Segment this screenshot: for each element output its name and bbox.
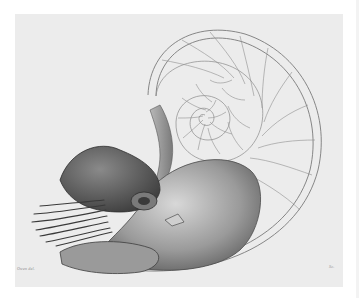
engraver-signature: Sc. <box>329 264 334 269</box>
artist-signature: Owen del. <box>17 266 35 271</box>
eye <box>131 192 157 210</box>
nautilus-illustration <box>0 0 359 298</box>
foot-lobe <box>60 242 159 274</box>
